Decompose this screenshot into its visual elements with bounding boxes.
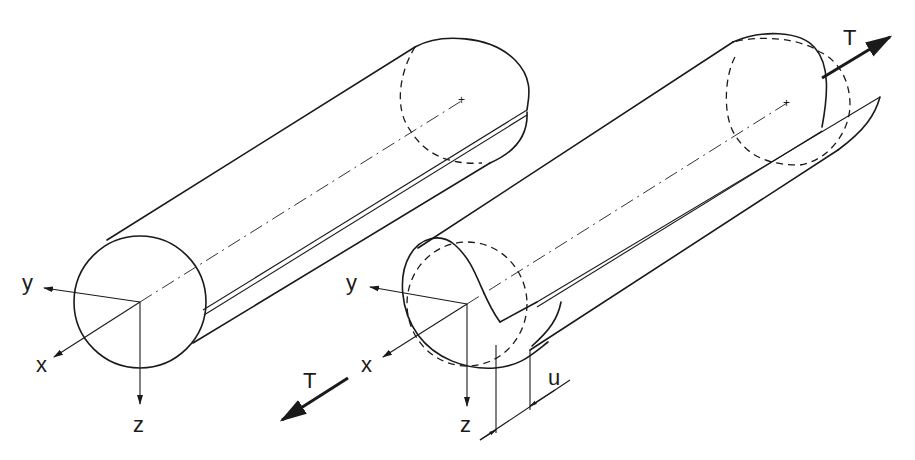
- left-z-label: z: [133, 412, 144, 437]
- right-back-flap: [838, 97, 880, 150]
- left-slit-line-2: [204, 115, 527, 315]
- left-center-axis: [140, 100, 463, 302]
- left-tube: + y x z: [22, 38, 529, 437]
- right-center-mark: +: [783, 96, 790, 110]
- left-x-axis: [54, 302, 140, 357]
- right-x-axis: [383, 304, 467, 357]
- left-bottom-edge: [193, 163, 490, 343]
- left-back-lower-arc: [490, 112, 527, 163]
- left-x-label: x: [36, 352, 47, 377]
- left-y-axis: [44, 288, 140, 302]
- right-flap-top-edge: [537, 97, 880, 302]
- right-front-section: [402, 238, 548, 368]
- right-z-label: z: [460, 412, 471, 437]
- right-top-edge: [418, 42, 733, 248]
- right-center-axis: [467, 103, 787, 304]
- displacement-u-label: u: [548, 365, 560, 390]
- right-x-label: x: [361, 352, 372, 377]
- left-y-label: y: [22, 270, 33, 295]
- right-y-label: y: [346, 270, 357, 295]
- right-flap-top-edge-2: [537, 131, 822, 307]
- torsion-diagram: + y x z + y x: [0, 0, 915, 460]
- right-front-lip: [500, 302, 537, 322]
- right-y-axis: [370, 287, 467, 304]
- right-flap-bottom-edge: [530, 150, 838, 350]
- torque-back-label: T: [843, 25, 856, 50]
- left-top-edge: [107, 47, 415, 240]
- right-tube: + y x z T T u: [282, 25, 890, 440]
- left-center-mark: +: [458, 93, 465, 107]
- u-dim-arrow-2: [530, 390, 555, 406]
- left-back-arc: [415, 38, 529, 110]
- torque-front-label: T: [303, 368, 316, 393]
- u-dim-arrow-1: [480, 430, 496, 440]
